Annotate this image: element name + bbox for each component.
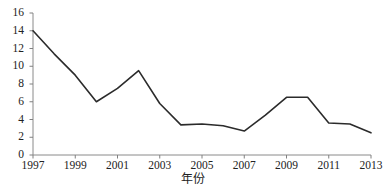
x-tick-marks xyxy=(33,155,371,159)
y-tick-label: 2 xyxy=(2,131,24,143)
x-tick-label: 1997 xyxy=(13,160,53,172)
y-tick-label: 12 xyxy=(2,43,24,55)
x-tick-label: 2005 xyxy=(182,160,222,172)
y-tick-label: 6 xyxy=(2,96,24,108)
y-tick-label: 0 xyxy=(2,149,24,161)
line-chart: 0246810121416 19971999200120032005200720… xyxy=(0,0,386,196)
y-tick-label: 16 xyxy=(2,7,24,19)
y-tick-label: 10 xyxy=(2,60,24,72)
x-tick-label: 2009 xyxy=(267,160,307,172)
x-tick-label: 2001 xyxy=(98,160,138,172)
x-tick-label: 2003 xyxy=(140,160,180,172)
y-tick-label: 4 xyxy=(2,114,24,126)
x-tick-label: 2011 xyxy=(309,160,349,172)
x-tick-label: 2013 xyxy=(351,160,386,172)
x-tick-label: 1999 xyxy=(55,160,95,172)
x-tick-label: 2007 xyxy=(224,160,264,172)
y-tick-label: 8 xyxy=(2,78,24,90)
axes xyxy=(33,13,371,155)
y-tick-marks xyxy=(30,13,34,155)
y-tick-label: 14 xyxy=(2,25,24,37)
x-axis-title: 年份 xyxy=(0,173,386,185)
data-line xyxy=(33,31,371,133)
data-series-group xyxy=(33,31,371,133)
